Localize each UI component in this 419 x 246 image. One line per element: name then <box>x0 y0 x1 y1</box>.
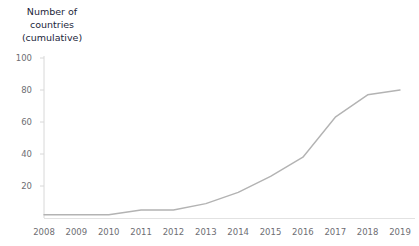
data-line-series-countries <box>44 90 400 215</box>
x-axis-tick-label: 2008 <box>27 228 61 237</box>
data-series-group <box>44 90 400 215</box>
x-axis-tick-label: 2010 <box>92 228 126 237</box>
line-chart-plot <box>0 0 419 246</box>
x-axis-tick-label: 2014 <box>221 228 255 237</box>
x-axis-tick-label: 2018 <box>351 228 385 237</box>
x-axis-tick-label: 2016 <box>286 228 320 237</box>
y-axis-tick-label: 40 <box>6 150 32 159</box>
y-axis-tick-label: 100 <box>6 54 32 63</box>
x-axis-tick-label: 2009 <box>59 228 93 237</box>
y-axis-tick-label: 80 <box>6 86 32 95</box>
x-axis-tick-label: 2011 <box>124 228 158 237</box>
x-axis-tick-label: 2015 <box>254 228 288 237</box>
x-axis-tick-label: 2013 <box>189 228 223 237</box>
y-axis-tick-label: 20 <box>6 182 32 191</box>
x-axis-labels: 2008200920102011201220132014201520162017… <box>0 228 419 240</box>
x-axis-tick-label: 2012 <box>156 228 190 237</box>
y-axis-ticks <box>40 58 44 186</box>
x-axis-tick-label: 2017 <box>318 228 352 237</box>
chart-container: Number of countries (cumulative) 2040608… <box>0 0 419 246</box>
y-axis-tick-label: 60 <box>6 118 32 127</box>
x-axis-tick-label: 2019 <box>383 228 417 237</box>
